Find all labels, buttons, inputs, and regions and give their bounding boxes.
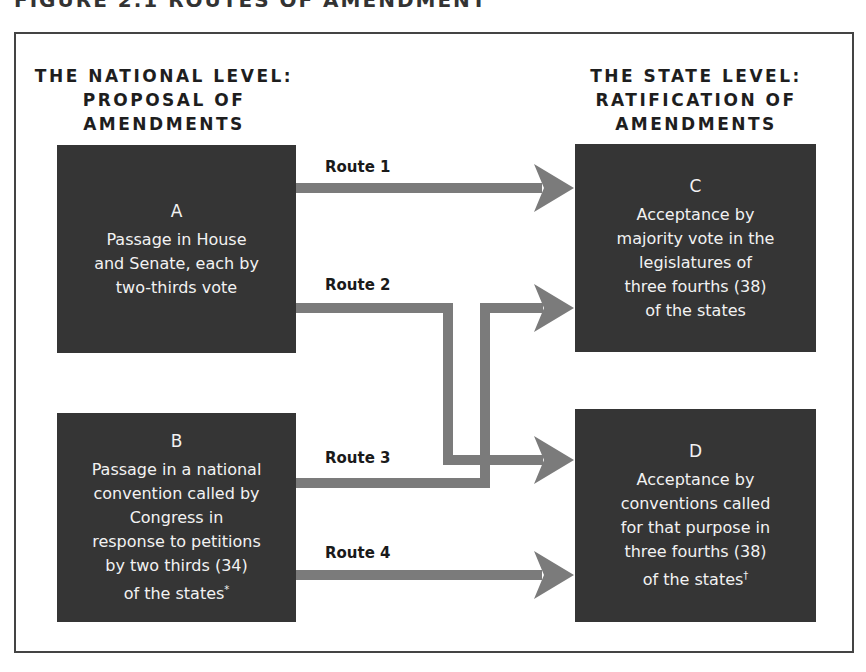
route-3-label: Route 3 xyxy=(325,449,391,467)
footnote-asterisk: * xyxy=(224,584,229,595)
box-text-line: by two thirds (34) xyxy=(105,554,248,578)
box-letter: B xyxy=(171,428,183,454)
box-text-line: Passage in a national xyxy=(92,458,262,482)
route-4-label: Route 4 xyxy=(325,544,391,562)
box-d-convention-ratification: D Acceptance by conventions called for t… xyxy=(575,409,816,622)
box-letter: A xyxy=(171,198,183,224)
route-1-label: Route 1 xyxy=(325,158,391,176)
box-text-line: of the states* xyxy=(124,578,230,606)
box-text-line: legislatures of xyxy=(639,251,752,275)
box-text-line: two-thirds vote xyxy=(116,276,237,300)
box-text-line: three fourths (38) xyxy=(624,540,766,564)
box-text-line: of the states† xyxy=(643,564,749,592)
box-text-last: of the states xyxy=(124,585,225,604)
box-text-line: three fourths (38) xyxy=(624,275,766,299)
box-text-line: Acceptance by xyxy=(637,468,755,492)
box-text-line: response to petitions xyxy=(92,530,261,554)
box-text-line: Passage in House xyxy=(106,228,246,252)
box-text-line: majority vote in the xyxy=(617,227,775,251)
box-letter: D xyxy=(689,438,702,464)
box-text-last: of the states xyxy=(643,571,744,590)
box-text-line: convention called by xyxy=(93,482,259,506)
box-text-line: for that purpose in xyxy=(621,516,770,540)
box-a-house-senate-proposal: A Passage in House and Senate, each by t… xyxy=(57,145,296,353)
box-text-line: and Senate, each by xyxy=(94,252,259,276)
box-letter: C xyxy=(690,173,702,199)
route-2-label: Route 2 xyxy=(325,276,391,294)
box-b-national-convention-proposal: B Passage in a national convention calle… xyxy=(57,413,296,622)
box-text-line: conventions called xyxy=(621,492,771,516)
box-text-line: Congress in xyxy=(130,506,224,530)
footnote-dagger: † xyxy=(743,570,748,581)
box-c-legislature-ratification: C Acceptance by majority vote in the leg… xyxy=(575,144,816,352)
box-text-line: Acceptance by xyxy=(637,203,755,227)
box-text-line: of the states xyxy=(645,299,746,323)
